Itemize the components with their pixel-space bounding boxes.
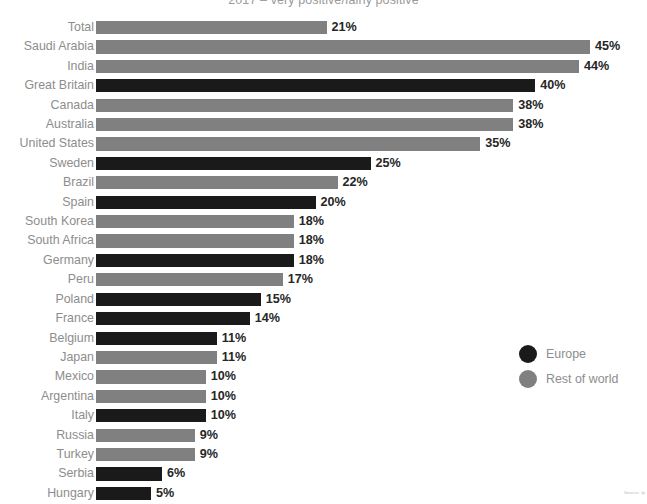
row-label: Sweden xyxy=(49,154,94,173)
chart-row: Australia38% xyxy=(0,115,647,134)
source-note: Source: Ip xyxy=(624,490,645,495)
bar-value-label: 44% xyxy=(584,60,609,73)
chart-row: Brazil22% xyxy=(0,173,647,192)
legend-label: Europe xyxy=(546,347,586,361)
bar xyxy=(96,118,513,131)
bar-value-label: 10% xyxy=(211,390,236,403)
chart-row: Russia9% xyxy=(0,426,647,445)
row-label: Russia xyxy=(56,426,94,445)
chart-row: Germany18% xyxy=(0,251,647,270)
bar-value-label: 15% xyxy=(266,293,291,306)
bar xyxy=(96,390,206,403)
bar xyxy=(96,99,513,112)
legend-item[interactable]: Rest of world xyxy=(519,366,618,391)
bar-track: 9% xyxy=(96,448,195,461)
bar-value-label: 11% xyxy=(222,351,247,364)
bar xyxy=(96,351,217,364)
chart-row: Serbia6% xyxy=(0,464,647,483)
row-label: Poland xyxy=(55,290,94,309)
bar xyxy=(96,273,283,286)
bar-value-label: 45% xyxy=(595,40,620,53)
row-label: Australia xyxy=(46,115,94,134)
bar-track: 44% xyxy=(96,60,579,73)
row-label: Spain xyxy=(62,193,94,212)
bar xyxy=(96,176,338,189)
bar-track: 25% xyxy=(96,157,371,170)
bar-value-label: 21% xyxy=(332,21,357,34)
row-label: Mexico xyxy=(55,367,94,386)
row-label: India xyxy=(67,57,94,76)
row-label: Total xyxy=(68,18,94,37)
bar-track: 18% xyxy=(96,254,294,267)
chart-row: Italy10% xyxy=(0,406,647,425)
bar-value-label: 22% xyxy=(343,176,368,189)
bar xyxy=(96,332,217,345)
bar xyxy=(96,21,327,34)
bar-track: 10% xyxy=(96,370,206,383)
chart-row: Canada38% xyxy=(0,96,647,115)
bar xyxy=(96,254,294,267)
chart-row: South Korea18% xyxy=(0,212,647,231)
row-label: Great Britain xyxy=(24,76,94,95)
chart-row: Sweden25% xyxy=(0,154,647,173)
row-label: Italy xyxy=(71,406,94,425)
chart-row: Total21% xyxy=(0,18,647,37)
bar xyxy=(96,429,195,442)
chart-row: South Africa18% xyxy=(0,231,647,250)
row-label: Brazil xyxy=(63,173,94,192)
bar-track: 17% xyxy=(96,273,283,286)
bar-track: 5% xyxy=(96,487,151,500)
bar-track: 38% xyxy=(96,99,513,112)
chart-title: 2017 – very positive/fairly positive xyxy=(0,0,647,7)
bar-value-label: 18% xyxy=(299,215,324,228)
chart-row: France14% xyxy=(0,309,647,328)
bar-value-label: 14% xyxy=(255,312,280,325)
bar-value-label: 18% xyxy=(299,254,324,267)
row-label: France xyxy=(55,309,94,328)
bar xyxy=(96,370,206,383)
row-label: Saudi Arabia xyxy=(24,37,94,56)
bar-value-label: 18% xyxy=(299,234,324,247)
bar-track: 18% xyxy=(96,215,294,228)
bar xyxy=(96,312,250,325)
row-label: South Africa xyxy=(27,231,94,250)
bar-track: 35% xyxy=(96,137,480,150)
row-label: United States xyxy=(20,134,94,153)
row-label: Belgium xyxy=(49,329,94,348)
row-label: Japan xyxy=(60,348,94,367)
chart-row: United States35% xyxy=(0,134,647,153)
bar-value-label: 6% xyxy=(167,467,185,480)
bar-value-label: 9% xyxy=(200,429,218,442)
chart-row: Great Britain40% xyxy=(0,76,647,95)
bar-track: 10% xyxy=(96,390,206,403)
bar-track: 45% xyxy=(96,40,590,53)
bar-track: 22% xyxy=(96,176,338,189)
row-label: Serbia xyxy=(58,464,94,483)
row-label: Peru xyxy=(68,270,94,289)
bar-chart: 2017 – very positive/fairly positive Tot… xyxy=(0,0,647,504)
chart-row: Saudi Arabia45% xyxy=(0,37,647,56)
bar-value-label: 11% xyxy=(222,332,247,345)
bar-track: 10% xyxy=(96,409,206,422)
legend-swatch-circle-icon xyxy=(519,345,537,363)
chart-legend: EuropeRest of world xyxy=(519,341,618,391)
chart-row: Spain20% xyxy=(0,193,647,212)
bar-value-label: 38% xyxy=(518,99,543,112)
bar xyxy=(96,448,195,461)
bar-track: 18% xyxy=(96,234,294,247)
row-label: Argentina xyxy=(41,387,94,406)
row-label: Turkey xyxy=(57,445,94,464)
bar xyxy=(96,157,371,170)
bar-track: 20% xyxy=(96,196,316,209)
legend-item[interactable]: Europe xyxy=(519,341,618,366)
bar-value-label: 40% xyxy=(540,79,565,92)
bar xyxy=(96,293,261,306)
bar-track: 14% xyxy=(96,312,250,325)
bar xyxy=(96,409,206,422)
bar xyxy=(96,137,480,150)
chart-row: India44% xyxy=(0,57,647,76)
bar xyxy=(96,234,294,247)
bar xyxy=(96,60,579,73)
chart-row: Turkey9% xyxy=(0,445,647,464)
bar-track: 40% xyxy=(96,79,535,92)
